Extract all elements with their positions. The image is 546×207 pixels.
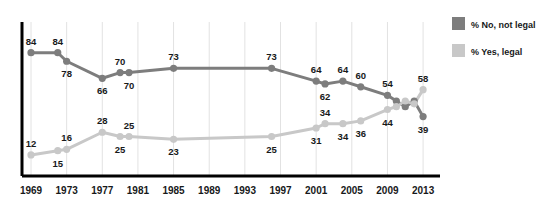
gridlines [31, 22, 423, 175]
data-point-value-label: 36 [355, 128, 366, 139]
legend-swatch [452, 44, 465, 57]
data-point [117, 69, 124, 76]
chart-legend: % No, not legal% Yes, legal [452, 17, 536, 57]
data-point [384, 92, 391, 99]
data-point [411, 100, 418, 107]
data-point [27, 49, 34, 56]
data-point [339, 78, 346, 85]
data-point-value-label: 28 [97, 115, 108, 126]
data-point-value-label: 84 [52, 36, 63, 47]
legend-swatch [452, 17, 465, 30]
data-point [357, 117, 364, 124]
x-axis-tick-label: 2005 [341, 185, 364, 196]
series-line-no-not-legal [31, 53, 423, 117]
data-point-value-label: 31 [311, 135, 322, 146]
data-point [125, 69, 132, 76]
data-point [384, 106, 391, 113]
data-point-value-label: 16 [61, 132, 72, 143]
data-point [54, 49, 61, 56]
data-point-value-label: 15 [52, 158, 63, 169]
data-point-value-label: 62 [320, 91, 331, 102]
data-point [63, 58, 70, 65]
data-point [268, 65, 275, 72]
data-point-value-label: 25 [124, 120, 135, 131]
line-chart: 8484786670707373646264605439121516282525… [0, 0, 546, 207]
data-point [170, 65, 177, 72]
data-point-value-label: 54 [382, 78, 393, 89]
chart-plot-area: 8484786670707373646264605439121516282525… [0, 0, 546, 207]
x-axis-tick-label: 2013 [412, 185, 435, 196]
data-point [393, 103, 400, 110]
data-point-value-label: 12 [26, 138, 37, 149]
x-axis-tick-labels: 1969197319771981198519891993199720012005… [20, 185, 435, 196]
data-point-value-label: 73 [266, 51, 277, 62]
x-axis-tick-label: 1997 [269, 185, 292, 196]
data-point-value-label: 44 [382, 117, 393, 128]
x-axis-tick-label: 2001 [305, 185, 328, 196]
data-point-value-label: 58 [418, 73, 429, 84]
x-axis-tick-label: 1973 [56, 185, 79, 196]
data-point [63, 146, 70, 153]
data-point [99, 75, 106, 82]
value-labels: 8484786670707373646264605439121516282525… [26, 36, 429, 169]
x-axis-tick-label: 1969 [20, 185, 43, 196]
data-point-value-label: 34 [338, 131, 349, 142]
data-point-value-label: 78 [61, 68, 72, 79]
data-point [419, 86, 426, 93]
x-axis-tick-label: 2009 [376, 185, 399, 196]
data-point [117, 133, 124, 140]
data-point [27, 151, 34, 158]
series-lines [31, 53, 423, 155]
data-point [321, 80, 328, 87]
data-point-value-label: 84 [26, 36, 37, 47]
data-point-value-label: 64 [311, 64, 322, 75]
series-points [27, 49, 426, 158]
data-point-value-label: 23 [168, 146, 179, 157]
data-point-value-label: 70 [115, 56, 126, 67]
data-point-value-label: 39 [418, 124, 429, 135]
data-point [54, 147, 61, 154]
data-point [125, 133, 132, 140]
data-point [268, 133, 275, 140]
data-point [357, 83, 364, 90]
data-point [313, 124, 320, 131]
x-axis-tick-label: 1977 [91, 185, 114, 196]
data-point-value-label: 25 [266, 144, 277, 155]
data-point [402, 97, 409, 104]
x-axis-tick-label: 1993 [234, 185, 257, 196]
legend-label: % Yes, legal [471, 47, 522, 57]
data-point [419, 113, 426, 120]
data-point-value-label: 66 [97, 85, 108, 96]
data-point [170, 136, 177, 143]
x-axis-tick-label: 1985 [162, 185, 185, 196]
x-axis-tick-label: 1981 [127, 185, 150, 196]
data-point-value-label: 34 [320, 107, 331, 118]
data-point [321, 120, 328, 127]
axes [22, 22, 440, 176]
data-point-value-label: 60 [355, 70, 366, 81]
legend-label: % No, not legal [471, 20, 536, 30]
data-point [99, 129, 106, 136]
data-point-value-label: 64 [338, 64, 349, 75]
data-point-value-label: 70 [124, 80, 135, 91]
series-line-yes-legal [31, 90, 423, 155]
data-point-value-label: 25 [115, 144, 126, 155]
data-point [313, 78, 320, 85]
x-axis-tick-label: 1989 [198, 185, 221, 196]
data-point [339, 120, 346, 127]
data-point-value-label: 73 [168, 51, 179, 62]
